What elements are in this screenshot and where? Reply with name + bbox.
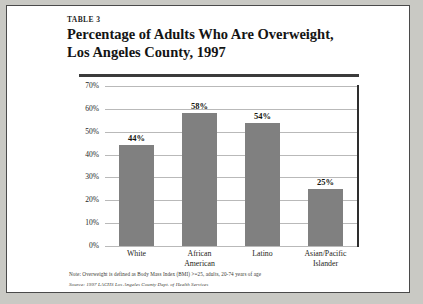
x-axis-category-label: Asian/Pacific Islander <box>289 249 363 268</box>
figure-footnotes: Note: Overweight is defined as Body Mass… <box>69 271 389 288</box>
y-axis-tick-label: 0% <box>59 242 99 250</box>
y-axis-tick-label: 10% <box>59 219 99 227</box>
bar-value-label: 25% <box>294 178 357 187</box>
y-axis-tick-label: 40% <box>59 151 99 159</box>
bar <box>245 123 280 246</box>
right-axis-line <box>357 85 359 247</box>
bar-value-label: 44% <box>105 134 168 143</box>
bar <box>308 189 343 246</box>
gridline <box>105 86 357 87</box>
bar-value-label: 58% <box>168 102 231 111</box>
bar <box>119 145 154 246</box>
y-axis-tick-label: 60% <box>59 105 99 113</box>
bar-chart: 70%60%50%40%30%20%10%0%44%White58%Africa… <box>7 6 411 294</box>
y-axis-tick-label: 70% <box>59 82 99 90</box>
gridline <box>105 109 357 110</box>
source-text: Source: 1997 LACHS Los Angeles County De… <box>69 281 389 289</box>
y-axis-tick-label: 50% <box>59 128 99 136</box>
bar <box>182 113 217 246</box>
figure-card: TABLE 3 Percentage of Adults Who Are Ove… <box>6 5 410 293</box>
y-axis-tick-label: 30% <box>59 173 99 181</box>
note-text: Note: Overweight is defined as Body Mass… <box>69 271 389 279</box>
bar-value-label: 54% <box>231 112 294 121</box>
gridline <box>105 246 357 247</box>
y-axis-tick-label: 20% <box>59 196 99 204</box>
